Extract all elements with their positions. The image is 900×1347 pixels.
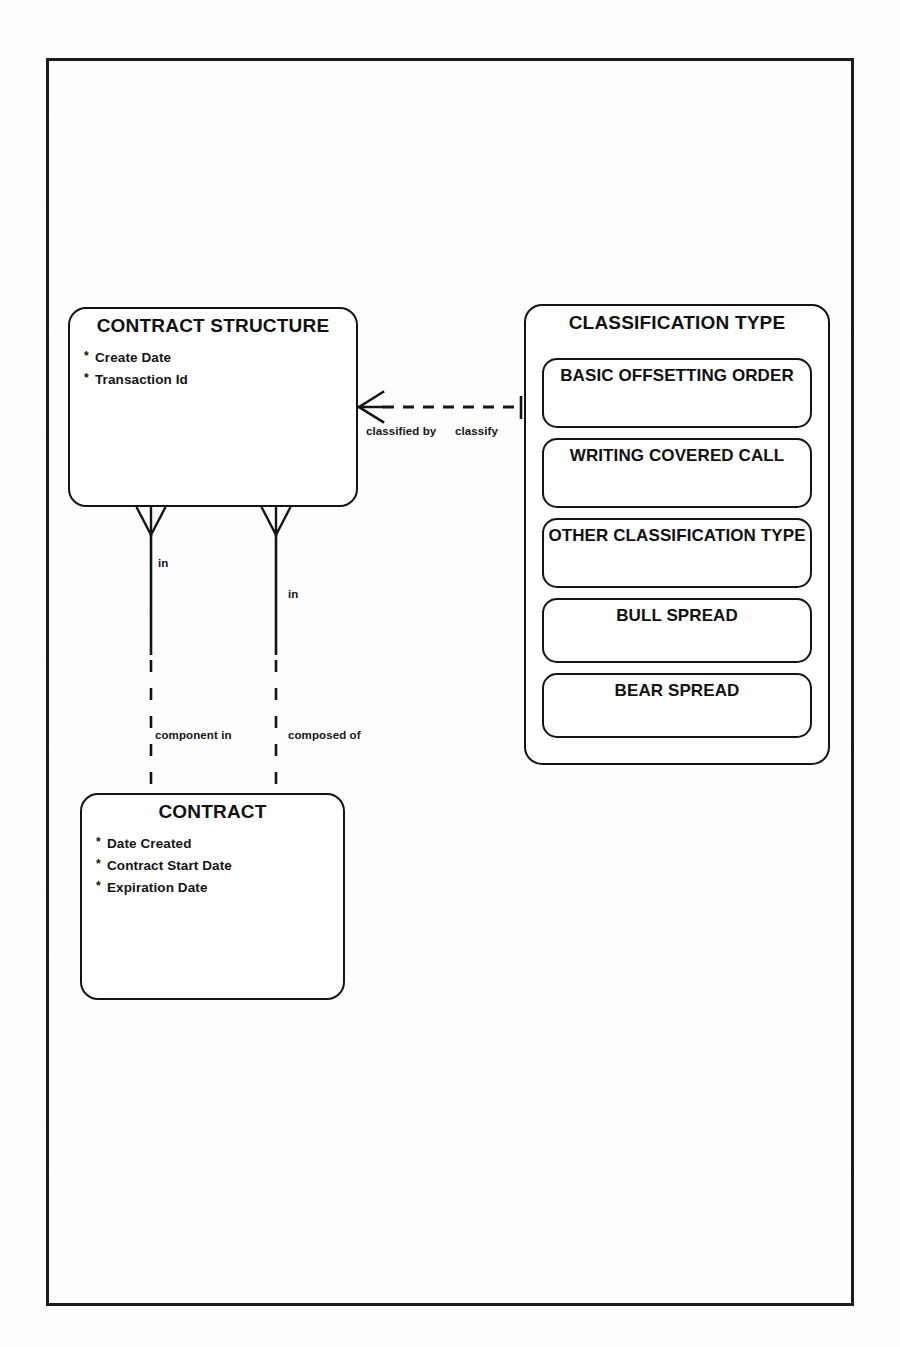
attribute-marker-icon: * [84,369,95,388]
relationship-label-classify: classify [455,425,498,437]
entity-contract[interactable]: CONTRACT *Date Created *Contract Start D… [80,793,345,1000]
attribute-row: *Transaction Id [84,369,356,391]
attribute-label: Transaction Id [95,372,188,387]
subtype-label: WRITING COVERED CALL [544,446,810,466]
subtype-basic-offsetting-order[interactable]: BASIC OFFSETTING ORDER [542,358,812,428]
relationship-label-in-component: in [158,557,168,569]
diagram-page: CONTRACT STRUCTURE *Create Date *Transac… [0,0,900,1347]
attribute-list-contract-structure: *Create Date *Transaction Id [70,347,356,391]
attribute-row: *Create Date [84,347,356,369]
attribute-marker-icon: * [96,833,107,852]
attribute-list-contract: *Date Created *Contract Start Date *Expi… [82,833,343,899]
relationship-label-component-in: component in [155,729,232,741]
attribute-marker-icon: * [84,347,95,366]
attribute-row: *Expiration Date [96,877,343,899]
attribute-row: *Contract Start Date [96,855,343,877]
attribute-marker-icon: * [96,877,107,896]
subtype-other-classification-type[interactable]: OTHER CLASSIFICATION TYPE [542,518,812,588]
subtype-label: OTHER CLASSIFICATION TYPE [544,526,810,546]
subtype-writing-covered-call[interactable]: WRITING COVERED CALL [542,438,812,508]
attribute-label: Expiration Date [107,880,208,895]
entity-title-contract: CONTRACT [82,801,343,823]
entity-title-contract-structure: CONTRACT STRUCTURE [70,315,356,337]
relationship-label-in-composed: in [288,588,298,600]
subtype-bear-spread[interactable]: BEAR SPREAD [542,673,812,738]
entity-contract-structure[interactable]: CONTRACT STRUCTURE *Create Date *Transac… [68,307,358,507]
entity-title-classification-type: CLASSIFICATION TYPE [526,312,828,334]
subtype-label: BASIC OFFSETTING ORDER [544,366,810,386]
subtype-bull-spread[interactable]: BULL SPREAD [542,598,812,663]
relationship-label-composed-of: composed of [288,729,361,741]
entity-classification-type[interactable]: CLASSIFICATION TYPE BASIC OFFSETTING ORD… [524,304,830,765]
subtype-label: BEAR SPREAD [544,681,810,701]
subtype-label: BULL SPREAD [544,606,810,626]
attribute-row: *Date Created [96,833,343,855]
attribute-label: Create Date [95,350,171,365]
attribute-marker-icon: * [96,855,107,874]
attribute-label: Contract Start Date [107,858,232,873]
attribute-label: Date Created [107,836,191,851]
relationship-label-classified-by: classified by [366,425,436,437]
